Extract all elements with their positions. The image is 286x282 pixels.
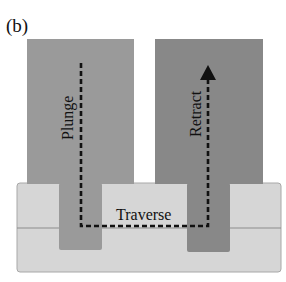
- friction-stir-path-diagram: (b) Plunge Retract Traverse: [0, 0, 286, 282]
- workpiece: [17, 183, 281, 272]
- diagram-canvas: (b) Plunge Retract Traverse: [0, 0, 286, 282]
- retract-label: Retract: [187, 90, 204, 137]
- plunge-label: Plunge: [59, 96, 77, 140]
- traverse-label: Traverse: [116, 206, 171, 223]
- panel-label: (b): [6, 15, 28, 37]
